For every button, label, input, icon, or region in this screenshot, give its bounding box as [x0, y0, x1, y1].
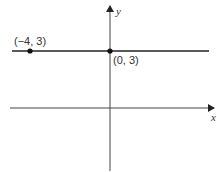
point-neg4-3-label: (−4, 3)	[14, 35, 46, 47]
y-axis-label: y	[115, 5, 121, 17]
point-neg4-3	[27, 48, 32, 53]
coordinate-plane: y x (−4, 3) (0, 3)	[0, 0, 217, 172]
x-axis-label: x	[210, 111, 216, 123]
point-0-3-label: (0, 3)	[113, 54, 139, 66]
point-0-3	[107, 48, 112, 53]
